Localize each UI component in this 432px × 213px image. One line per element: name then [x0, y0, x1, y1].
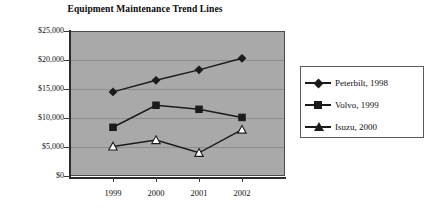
chart-legend: Peterbilt, 1998Volvo, 1999Isuzu, 2000	[300, 66, 424, 138]
triangle-marker-icon	[305, 120, 331, 134]
square-data-marker	[196, 106, 202, 112]
y-axis-label: $0	[8, 172, 64, 180]
y-axis-label: $5,000	[8, 143, 64, 151]
diamond-data-marker	[195, 66, 202, 73]
diamond-data-marker	[109, 88, 116, 95]
series-plot	[70, 31, 285, 176]
y-axis-label: $10,000	[8, 114, 64, 122]
x-axis-line	[69, 177, 286, 179]
x-axis-tick	[242, 177, 243, 182]
diamond-marker-icon	[305, 76, 331, 90]
legend-item-label: Peterbilt, 1998	[335, 78, 388, 88]
triangle-data-marker	[238, 125, 246, 133]
diamond-data-marker	[238, 55, 245, 62]
y-axis-tick	[64, 176, 70, 177]
y-axis-tick	[64, 60, 70, 61]
square-marker-icon	[305, 98, 331, 112]
legend-item-label: Volvo, 1999	[335, 100, 379, 110]
y-axis-tick	[64, 31, 70, 32]
series-line	[113, 105, 242, 127]
chart-container: Equipment Maintenance Trend Lines $25,00…	[0, 0, 432, 213]
y-axis-tick	[64, 147, 70, 148]
x-axis-tick	[156, 177, 157, 182]
series-line	[113, 58, 242, 92]
series-line	[113, 130, 242, 153]
legend-key-symbol	[314, 122, 324, 131]
y-axis-tick	[64, 118, 70, 119]
legend-item[interactable]: Volvo, 1999	[305, 94, 419, 116]
x-axis-label: 2002	[217, 188, 267, 198]
legend-key-symbol	[314, 78, 324, 88]
square-data-marker	[239, 114, 245, 120]
x-axis-tick	[113, 177, 114, 182]
diamond-data-marker	[152, 77, 159, 84]
legend-key-symbol	[314, 101, 322, 109]
y-axis-tick	[64, 89, 70, 90]
square-data-marker	[110, 124, 116, 130]
y-axis-label: $20,000	[8, 56, 64, 64]
square-data-marker	[153, 102, 159, 108]
legend-item[interactable]: Isuzu, 2000	[305, 116, 419, 138]
y-axis-label: $15,000	[8, 85, 64, 93]
legend-item-label: Isuzu, 2000	[335, 122, 377, 132]
y-axis-labels: $25,000$20,000$15,000$10,000$5,000$0	[0, 0, 64, 213]
y-axis-label: $25,000	[8, 27, 64, 35]
legend-item[interactable]: Peterbilt, 1998	[305, 72, 419, 94]
x-axis-tick	[199, 177, 200, 182]
